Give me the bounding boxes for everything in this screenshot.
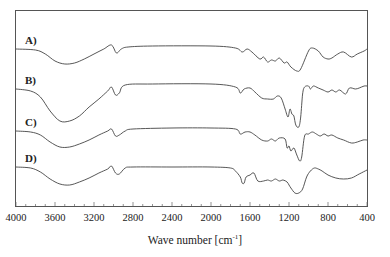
series-label-a: A): [25, 34, 37, 47]
x-tick-label: 1200: [279, 212, 300, 223]
x-axis-label-main: Wave number [cm: [148, 234, 233, 246]
x-tick-label: 800: [320, 212, 336, 223]
x-axis-label-close: ]: [238, 234, 242, 246]
series-label-b: B): [25, 74, 36, 87]
spectrum-trace-a: [16, 45, 367, 71]
x-axis-tick-labels: 40003600320028002400200016001200800400: [6, 212, 375, 223]
series-label-c: C): [25, 116, 37, 129]
x-tick-label: 400: [359, 212, 375, 223]
spectra-traces: [16, 45, 367, 194]
spectrum-trace-d: [16, 166, 367, 194]
x-tick-label: 1600: [240, 212, 261, 223]
x-tick-label: 2800: [123, 212, 144, 223]
x-tick-label: 3200: [84, 212, 105, 223]
series-label-d: D): [25, 152, 37, 165]
x-tick-label: 4000: [6, 212, 27, 223]
x-tick-label: 2400: [162, 212, 183, 223]
ftir-spectra-chart: 40003600320028002400200016001200800400 A…: [0, 0, 390, 257]
x-axis-ticks: [16, 202, 367, 206]
series-labels: A)B)C)D): [25, 34, 37, 165]
x-axis-label: Wave number [cm-1]: [0, 233, 390, 246]
x-tick-label: 3600: [45, 212, 66, 223]
x-tick-label: 2000: [201, 212, 222, 223]
spectrum-trace-c: [16, 128, 367, 161]
spectrum-trace-b: [16, 84, 367, 128]
plot-frame: [16, 11, 368, 207]
